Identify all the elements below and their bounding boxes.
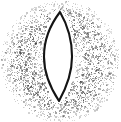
figure-canvas: Vertical lens (vesica) outline with stip… xyxy=(0,0,121,122)
lens-interior xyxy=(44,12,72,101)
lens-figure-svg: Vertical lens (vesica) outline with stip… xyxy=(0,0,121,122)
